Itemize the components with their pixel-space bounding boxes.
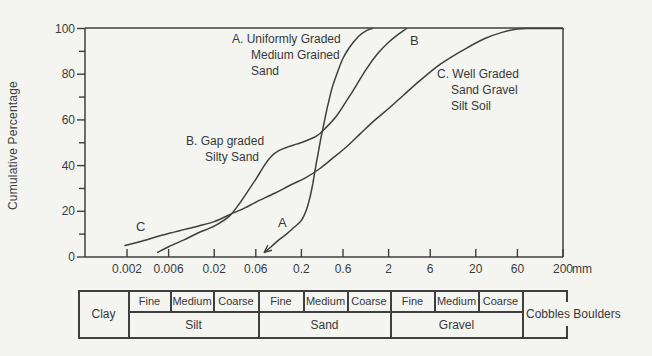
table-cell-silt-medium: Medium xyxy=(171,291,213,311)
table-cell-gravel-medium: Medium xyxy=(435,291,478,311)
y-tick-label: 60 xyxy=(49,113,75,127)
table-cell-silt-coarse: Coarse xyxy=(214,291,258,311)
x-tick-label: 2 xyxy=(385,262,392,276)
y-tick-label: 100 xyxy=(49,22,75,36)
grain-size-distribution-figure: Cumulative Percentage 020406080100 0.002… xyxy=(0,0,652,356)
x-tick-label: 0.06 xyxy=(244,262,267,276)
x-tick-label: 0.2 xyxy=(293,262,310,276)
curve-b-annotation-line2: Silty Sand xyxy=(186,149,264,165)
x-tick-label: 20 xyxy=(469,262,482,276)
table-cell-silt-fine: Fine xyxy=(129,291,170,311)
table-cell-cobbles-boulders: Cobbles Boulders xyxy=(523,291,636,337)
curve-a-annotation-line3: Sand xyxy=(232,63,341,79)
x-tick-label: 0.6 xyxy=(335,262,352,276)
table-cell-gravel-coarse: Coarse xyxy=(479,291,522,311)
x-tick-label: 200 xyxy=(553,262,573,276)
table-cell-sand-medium: Medium xyxy=(304,291,347,311)
curve-b-annotation: B. Gap graded Silty Sand xyxy=(186,133,264,165)
curve-a-annotation-line2: Medium Grained xyxy=(232,47,341,63)
x-tick-label: 6 xyxy=(427,262,434,276)
curve-a-letter: A xyxy=(278,215,287,230)
curve-a-annotation-line1: A. Uniformly Graded xyxy=(232,31,341,47)
x-axis-unit-label: mm xyxy=(572,262,592,276)
curve-c-annotation-line1: C. Well Graded xyxy=(437,66,519,82)
x-tick-label: 0.002 xyxy=(112,262,142,276)
x-tick-label: 0.006 xyxy=(154,262,184,276)
y-axis-label: Cumulative Percentage xyxy=(6,80,22,210)
y-tick-label: 40 xyxy=(49,159,75,173)
table-cell-sand-coarse: Coarse xyxy=(348,291,390,311)
curve-a-annotation: A. Uniformly Graded Medium Grained Sand xyxy=(232,31,341,79)
y-tick-label: 0 xyxy=(49,250,75,264)
table-cell-gravel: Gravel xyxy=(391,312,522,337)
x-tick-label: 60 xyxy=(511,262,524,276)
curve-b-annotation-line1: B. Gap graded xyxy=(186,133,264,149)
curve-c-annotation: C. Well Graded Sand Gravel Silt Soil xyxy=(437,66,519,114)
curve-c-letter: C xyxy=(136,219,145,234)
y-tick-label: 80 xyxy=(49,67,75,81)
y-tick-label: 20 xyxy=(49,204,75,218)
curve-c-annotation-line2: Sand Gravel xyxy=(437,82,519,98)
curve-c-annotation-line3: Silt Soil xyxy=(437,98,519,114)
table-cell-clay: Clay xyxy=(79,291,128,337)
table-cell-silt: Silt xyxy=(129,312,258,337)
table-cell-sand: Sand xyxy=(259,312,390,337)
x-tick-label: 0.02 xyxy=(203,262,226,276)
curve-b-letter: B xyxy=(410,33,419,48)
table-cell-sand-fine: Fine xyxy=(259,291,303,311)
table-cell-gravel-fine: Fine xyxy=(391,291,434,311)
